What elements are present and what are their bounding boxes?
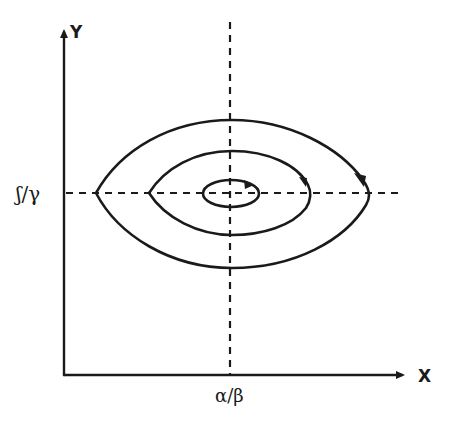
outer-orbit-arrow-icon <box>354 173 366 187</box>
direction-arrows <box>244 173 366 189</box>
middle-orbit-arrow-icon <box>299 177 307 187</box>
phase-portrait-diagram: Y X ʃ/γ α/β <box>0 0 456 432</box>
equilibrium-lines <box>66 22 402 374</box>
x-axis-label: X <box>418 366 431 386</box>
y-axis-label: Y <box>69 22 83 42</box>
axes <box>64 32 402 375</box>
y-equilibrium-label: ʃ/γ <box>14 182 40 206</box>
inner-orbit-arrow-icon <box>244 180 254 189</box>
x-equilibrium-label: α/β <box>215 385 244 406</box>
